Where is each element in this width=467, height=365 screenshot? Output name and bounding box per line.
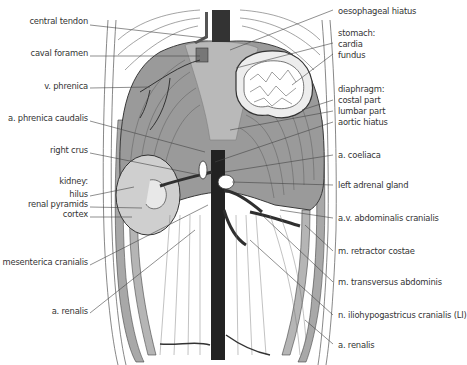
label-diaphragm: diaphragm: xyxy=(338,84,384,94)
oesophagus xyxy=(212,10,230,42)
label-lumbar-part: lumbar part xyxy=(338,106,385,116)
label-v-phrenica: v. phrenica xyxy=(44,81,88,91)
left-adrenal-gland xyxy=(218,175,234,189)
label-aortic-hiatus: aortic hiatus xyxy=(338,117,388,127)
label-av-abdominalis-cranialis: a.v. abdominalis cranialis xyxy=(338,213,439,223)
label-a-renalis-right: a. renalis xyxy=(338,340,374,350)
label-costal-part: costal part xyxy=(338,95,380,105)
label-cortex: cortex xyxy=(63,209,88,219)
label-m-retractor-costae: m. retractor costae xyxy=(338,246,415,256)
label-kidney: kidney: xyxy=(59,176,88,186)
label-renal-pyramids: renal pyramids xyxy=(28,199,88,209)
label-left-adrenal-gland: left adrenal gland xyxy=(338,180,408,190)
label-hilus: hilus xyxy=(69,189,88,199)
label-central-tendon: central tendon xyxy=(29,16,88,26)
label-right-crus: right crus xyxy=(50,145,88,155)
label-n-iliohypogastricus-cranialis: n. iliohypogastricus cranialis (LI) xyxy=(338,310,467,320)
label-cardia: cardia xyxy=(338,39,363,49)
right-adrenal-gland xyxy=(199,161,207,179)
caval-foramen xyxy=(196,48,208,62)
label-a-phrenica-caudalis: a. phrenica caudalis xyxy=(8,113,88,123)
label-m-transversus-abdominis: m. transversus abdominis xyxy=(338,277,442,287)
label-oesophageal-hiatus: oesophageal hiatus xyxy=(338,6,416,16)
label-fundus: fundus xyxy=(338,50,365,60)
right-wall-strip-2 xyxy=(282,210,310,355)
label-caval-foramen: caval foramen xyxy=(31,48,88,58)
vena-cava-top xyxy=(194,12,208,44)
label-a-coeliaca: a. coeliaca xyxy=(338,150,381,160)
stomach-inner xyxy=(244,61,304,109)
label-a-mesenterica-cranialis: a. mesenterica cranialis xyxy=(0,257,88,267)
label-stomach: stomach: xyxy=(338,28,375,38)
label-a-renalis-left: a. renalis xyxy=(52,306,88,316)
